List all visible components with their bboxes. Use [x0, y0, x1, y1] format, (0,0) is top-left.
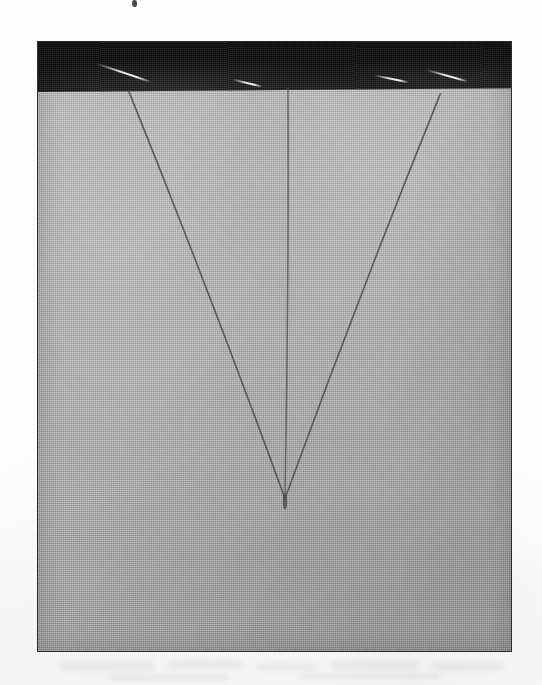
bleed-1	[58, 662, 154, 671]
streak-1	[96, 63, 150, 83]
ink-speck	[132, 0, 137, 7]
fabric-field	[38, 42, 511, 651]
bleed-3	[258, 663, 316, 671]
bleed-6	[110, 674, 230, 681]
photograph-plate	[37, 41, 512, 652]
dark-upper-band	[37, 41, 512, 92]
bleed-2	[168, 660, 242, 670]
streak-2	[232, 78, 262, 87]
bleed-4	[330, 661, 418, 670]
streak-4	[426, 69, 467, 82]
streak-3	[374, 74, 408, 83]
bleed-7	[300, 673, 440, 680]
scanned-page	[0, 0, 542, 685]
bleed-5	[432, 662, 504, 671]
